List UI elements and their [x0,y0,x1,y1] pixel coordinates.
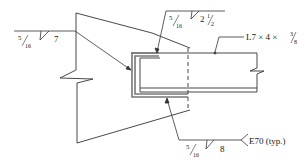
bottom-weld-symbol [165,98,248,149]
angle-member [131,53,264,92]
left-weld-size-num: 5 [18,34,22,42]
top-weld-size-den: 16 [176,23,182,29]
top-weld-length-frac-num: 1 [207,13,210,19]
bottom-weld-size-den: 16 [193,152,199,158]
bottom-weld-tail-note: E70 (typ.) [249,136,286,146]
member-label-frac-num: 3 [290,31,293,37]
left-weld-size-den: 16 [25,43,31,49]
top-weld-size-num: 5 [169,14,173,22]
left-weld-symbol [14,31,131,70]
bottom-weld-length: 8 [220,144,225,154]
top-weld-length-frac-den: 2 [211,21,214,27]
top-weld-symbol [155,11,225,53]
left-weld-length: 7 [54,34,59,44]
member-label: L7 × 4 × [246,32,277,42]
member-label-frac-den: 8 [294,39,297,45]
gusset-plate [60,13,190,143]
bottom-weld-size-num: 5 [186,143,190,151]
top-weld-length: 2 [200,14,205,24]
weld-detail-drawing: 5 16 7 5 16 2 1 2 L7 × 4 × 3 8 5 16 8 E7… [0,0,306,165]
member-label-leader [214,37,244,54]
